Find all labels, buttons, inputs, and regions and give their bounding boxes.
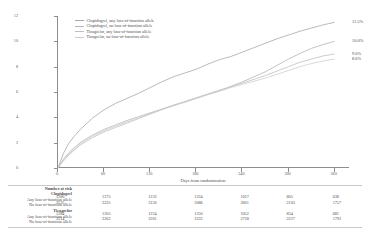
x-tick-mark bbox=[103, 168, 104, 172]
x-tick-mark bbox=[149, 168, 150, 172]
x-tick-label: 60 bbox=[101, 172, 105, 176]
y-tick-label: 10 bbox=[14, 39, 18, 43]
x-tick-label: 240 bbox=[238, 172, 244, 176]
x-tick-mark bbox=[195, 168, 196, 172]
table-cell-group: 3514326232013222273822271793 bbox=[72, 220, 370, 226]
table-cell: 3235 bbox=[102, 201, 110, 205]
curve-series-1 bbox=[58, 41, 335, 168]
y-tick-mark bbox=[54, 41, 58, 42]
table-cell: 3222 bbox=[194, 217, 202, 221]
table-cell: 3150 bbox=[148, 201, 156, 205]
legend-swatch-icon bbox=[75, 20, 84, 21]
table-cell: 681 bbox=[333, 212, 339, 216]
y-tick-mark bbox=[54, 16, 58, 17]
kaplan-meier-figure: 024681012 Event rate (%) 060120180240300… bbox=[0, 0, 370, 242]
table-cell: 638 bbox=[333, 195, 339, 199]
y-tick-mark bbox=[54, 143, 58, 144]
legend-swatch-icon bbox=[75, 37, 84, 38]
table-rule-bottom bbox=[8, 227, 362, 228]
table-cell: 3201 bbox=[148, 217, 156, 221]
table-cell: 1027 bbox=[240, 195, 248, 199]
table-cell: 3262 bbox=[102, 217, 110, 221]
table-cell: 2227 bbox=[287, 217, 295, 221]
y-tick-label: 6 bbox=[16, 90, 18, 94]
x-axis-label: Days from randomization bbox=[180, 179, 225, 183]
legend: Clopidogrel, any loss-of-function allele… bbox=[75, 18, 154, 40]
x-tick-label: 0 bbox=[56, 172, 58, 176]
table-cell: 1275 bbox=[102, 195, 110, 199]
x-tick-mark bbox=[334, 168, 335, 172]
x-tick-mark bbox=[288, 168, 289, 172]
table-cell: 2738 bbox=[240, 217, 248, 221]
table-cell: 1224 bbox=[148, 212, 156, 216]
legend-swatch-icon bbox=[75, 26, 84, 27]
y-tick-mark bbox=[54, 117, 58, 118]
curve-series-2 bbox=[58, 54, 335, 168]
table-cell: 3535 bbox=[56, 201, 64, 205]
y-tick-label: 12 bbox=[14, 14, 18, 18]
table-cell: 1284 bbox=[56, 212, 64, 216]
endpoint-label: 8.6% bbox=[352, 57, 361, 61]
table-rule-top bbox=[8, 185, 362, 186]
y-tick-label: 0 bbox=[16, 166, 18, 170]
number-at-risk-table: Number at riskClopidogrelAny loss-of-fun… bbox=[0, 186, 370, 225]
table-cell: 834 bbox=[287, 212, 293, 216]
table-cell: 1233 bbox=[148, 195, 156, 199]
curve-series-0 bbox=[58, 22, 335, 168]
table-cell: 805 bbox=[287, 195, 293, 199]
x-tick-label: 180 bbox=[192, 172, 198, 176]
risk-table: Number at riskClopidogrelAny loss-of-fun… bbox=[0, 186, 370, 225]
x-tick-label: 360 bbox=[330, 172, 336, 176]
curve-series-3 bbox=[58, 59, 335, 168]
x-tick-mark bbox=[57, 168, 58, 172]
legend-swatch-icon bbox=[75, 31, 84, 32]
table-cell: 3086 bbox=[194, 201, 202, 205]
legend-label: Clopidogrel, no loss-of-function allele bbox=[87, 24, 153, 28]
table-cell: 1793 bbox=[333, 217, 341, 221]
y-tick-label: 2 bbox=[16, 141, 18, 145]
y-tick-label: 4 bbox=[16, 115, 18, 119]
endpoint-label: 10.0% bbox=[352, 39, 363, 43]
table-cell: 1224 bbox=[194, 195, 202, 199]
table-cell: 1052 bbox=[240, 212, 248, 216]
y-tick-mark bbox=[54, 67, 58, 68]
endpoint-label: 11.5% bbox=[352, 20, 363, 24]
legend-item: Ticagrelor, no loss-of-function allele bbox=[75, 35, 154, 41]
table-cell: 1380 bbox=[56, 195, 64, 199]
table-cell: 2601 bbox=[240, 201, 248, 205]
table-cell: 1757 bbox=[333, 201, 341, 205]
table-cell: 2103 bbox=[287, 201, 295, 205]
x-tick-mark bbox=[241, 168, 242, 172]
y-tick-mark bbox=[54, 92, 58, 93]
table-cell: 1205 bbox=[102, 212, 110, 216]
legend-label: Ticagrelor, no loss-of-function allele bbox=[87, 35, 150, 39]
table-row: No loss-of-function allele35143262320132… bbox=[0, 220, 370, 226]
table-cell-group: 3535323531503086260121031757 bbox=[72, 203, 370, 209]
y-tick-label: 8 bbox=[16, 65, 18, 69]
x-tick-label: 300 bbox=[284, 172, 290, 176]
table-cell: 1250 bbox=[194, 212, 202, 216]
x-tick-label: 120 bbox=[146, 172, 152, 176]
table-cell: 3514 bbox=[56, 217, 64, 221]
